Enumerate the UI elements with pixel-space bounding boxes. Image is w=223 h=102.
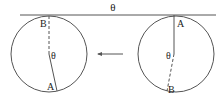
diagram: θ B A θ A B θ	[0, 0, 223, 102]
right-circle-group: A B θ	[138, 15, 214, 95]
top-theta-label: θ	[110, 1, 115, 13]
left-theta-label: θ	[51, 50, 56, 61]
left-label-a: A	[47, 81, 55, 92]
left-circle-group: B A θ	[11, 16, 87, 92]
right-theta-label: θ	[166, 50, 171, 61]
right-label-b: B	[168, 84, 175, 95]
left-label-b: B	[40, 18, 47, 29]
right-circle	[138, 16, 214, 92]
arrow-left-icon	[97, 52, 123, 56]
right-label-a: A	[177, 18, 185, 29]
